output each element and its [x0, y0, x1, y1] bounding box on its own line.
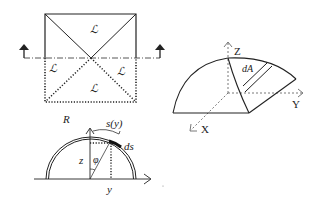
stray-mark — [162, 185, 163, 186]
angle-label: φ — [93, 154, 99, 165]
z-axis-label: Z — [234, 45, 241, 57]
area-element-label: dA — [242, 63, 254, 74]
horizontal-label: y — [106, 183, 112, 195]
region-label-left: ℒ — [49, 62, 58, 74]
square-upper-outline — [45, 14, 136, 58]
arc-length-bracket — [93, 130, 119, 134]
diagonal-lower-right — [91, 58, 135, 101]
diagonal-upper-left — [45, 14, 91, 58]
dome-3d-figure: Z Y X dA — [173, 42, 303, 135]
section-arrow-right-icon — [155, 44, 165, 58]
arc-length-bracket-end — [119, 131, 120, 134]
region-label-top: ℒ — [90, 23, 99, 35]
dome-outer-arc — [173, 58, 296, 113]
x-axis-label: X — [201, 123, 209, 135]
diagram-canvas: ℒ ℒ ℒ ℒ Z Y X dA — [0, 0, 316, 200]
cross-section-figure: R s(y) ds z φ y — [34, 113, 151, 195]
region-label-right: ℒ — [117, 65, 126, 77]
diagonal-upper-right — [91, 14, 136, 58]
radius-label: R — [62, 113, 70, 125]
angle-arc — [90, 169, 95, 170]
arc-element-label: ds — [124, 140, 134, 152]
x-axis — [191, 93, 228, 130]
height-label: z — [78, 154, 84, 166]
dome-cut-edge — [249, 79, 296, 113]
plan-view-figure: ℒ ℒ ℒ ℒ — [19, 14, 165, 102]
region-label-bottom: ℒ — [90, 82, 99, 94]
section-arrow-left-icon — [19, 44, 29, 58]
arc-length-label: s(y) — [106, 117, 123, 130]
y-axis-label: Y — [292, 98, 300, 110]
